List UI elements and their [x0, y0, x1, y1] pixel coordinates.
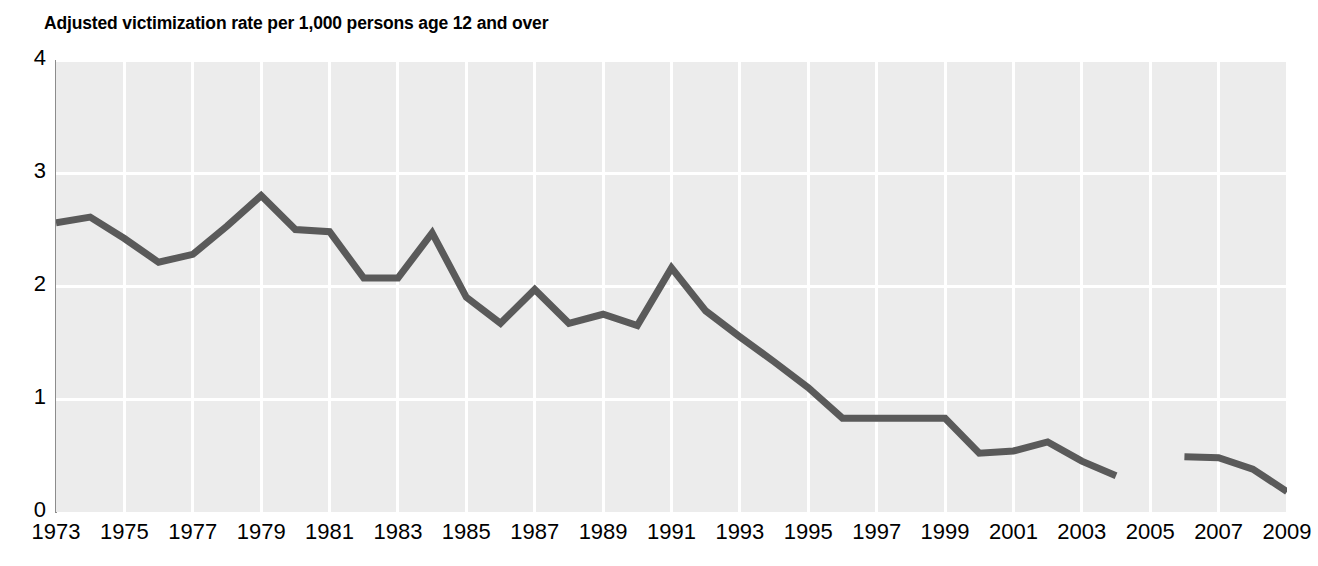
x-axis-tick-label: 1987	[500, 519, 570, 545]
series-line-1	[1184, 457, 1287, 492]
chart-figure: Adjusted victimization rate per 1,000 pe…	[0, 0, 1318, 566]
y-axis-tick-label: 3	[4, 158, 46, 184]
x-axis-tick-label: 1991	[637, 519, 707, 545]
x-axis-tick-label: 2005	[1115, 519, 1185, 545]
x-axis-tick-label: 1985	[431, 519, 501, 545]
x-axis-tick-label: 1977	[158, 519, 228, 545]
x-axis-tick-label: 1983	[363, 519, 433, 545]
x-axis-tick-label: 1993	[705, 519, 775, 545]
y-axis-tick-label: 2	[4, 271, 46, 297]
x-axis-tick-label: 2007	[1184, 519, 1254, 545]
x-axis-tick-label: 1995	[773, 519, 843, 545]
x-axis-tick-label: 1979	[226, 519, 296, 545]
y-axis-tick-label: 1	[4, 384, 46, 410]
plot-area	[56, 60, 1287, 512]
y-axis-tick-label: 4	[4, 45, 46, 71]
series-line-0	[56, 196, 1116, 476]
x-axis-tick-label: 1997	[842, 519, 912, 545]
x-axis-tick-label: 2001	[978, 519, 1048, 545]
x-axis-tick-label: 1999	[910, 519, 980, 545]
x-axis-tick-label: 1975	[89, 519, 159, 545]
x-axis-tick-label: 2009	[1252, 519, 1318, 545]
chart-title: Adjusted victimization rate per 1,000 pe…	[44, 13, 548, 34]
x-axis-tick-label: 1973	[21, 519, 91, 545]
x-axis-tick-label: 2003	[1047, 519, 1117, 545]
x-axis-tick-label: 1989	[568, 519, 638, 545]
x-axis-tick-label: 1981	[295, 519, 365, 545]
data-series-layer	[56, 60, 1287, 512]
